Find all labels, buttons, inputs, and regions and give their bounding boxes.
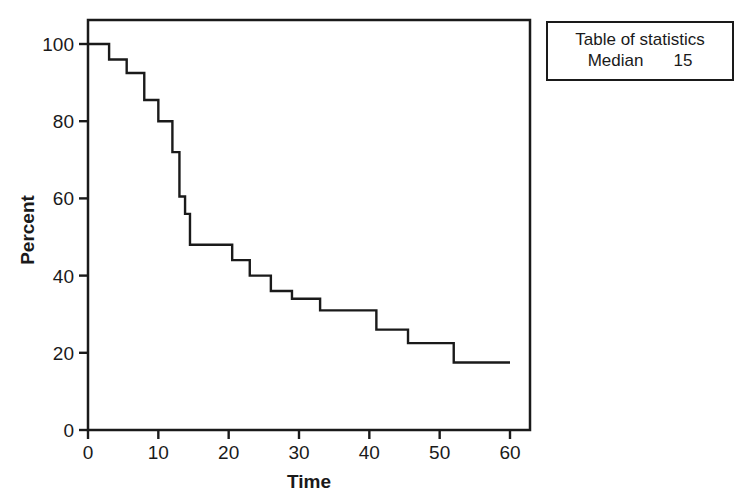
x-tick-label: 50 [429, 442, 450, 463]
x-tick-label: 30 [288, 442, 309, 463]
y-tick-label: 100 [42, 34, 74, 55]
x-tick-label: 40 [359, 442, 380, 463]
x-axis-ticks: 0102030405060 [83, 430, 521, 463]
y-tick-label: 60 [53, 188, 74, 209]
survival-chart-figure: 020406080100 0102030405060 Percent Time … [0, 0, 755, 504]
y-tick-label: 80 [53, 111, 74, 132]
x-tick-label: 60 [499, 442, 520, 463]
y-tick-label: 0 [63, 420, 74, 441]
x-tick-label: 10 [148, 442, 169, 463]
x-axis-title: Time [287, 471, 331, 492]
x-tick-label: 0 [83, 442, 94, 463]
plot-frame [88, 20, 530, 430]
y-tick-label: 20 [53, 343, 74, 364]
statistics-table-title: Table of statistics [575, 30, 704, 50]
statistics-table: Table of statistics Median 15 [546, 21, 734, 81]
x-tick-label: 20 [218, 442, 239, 463]
y-axis-ticks: 020406080100 [42, 34, 88, 441]
statistics-row-label: Median [588, 51, 644, 71]
y-tick-label: 40 [53, 266, 74, 287]
statistics-row-value: 15 [673, 51, 692, 71]
statistics-table-row: Median 15 [588, 51, 693, 71]
y-axis-title: Percent [17, 194, 38, 264]
